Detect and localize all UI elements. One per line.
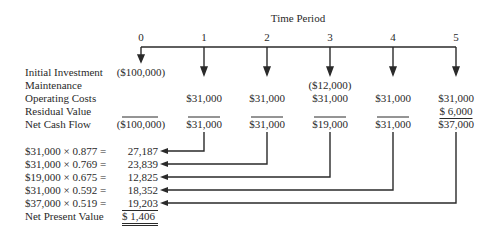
arrow-left-icon: [160, 174, 168, 180]
pv-value-4: 18,352: [118, 184, 158, 197]
arrow-left-icon: [160, 161, 168, 167]
value-operating-costs-4: $31,000: [375, 92, 411, 105]
pv-formula-4: $31,000 × 0.592 =: [25, 184, 106, 197]
arrow-left-icon: [160, 200, 168, 206]
arrow-left-icon: [160, 148, 168, 154]
pv-value-5: 19,203: [122, 197, 158, 211]
arrow-down-icon: [138, 55, 144, 62]
period-label-1: 1: [201, 31, 207, 44]
npv-label: Net Present Value: [25, 210, 104, 223]
left-arrowheads: [160, 148, 168, 206]
row-label-residual-value: Residual Value: [25, 105, 91, 118]
pv-value-1: 27,187: [118, 145, 158, 158]
value-operating-costs-3: $31,000: [312, 92, 348, 105]
arrow-down-icon: [327, 67, 333, 75]
arrow-down-icon: [390, 67, 396, 75]
value-net-cash-flow-0: ($100,000): [117, 118, 166, 131]
pv-value-3: 12,825: [118, 171, 158, 184]
period-arrows: [138, 47, 459, 75]
value-operating-costs-5: $31,000: [438, 92, 474, 105]
row-label-maintenance: Maintenance: [25, 79, 82, 92]
period-label-2: 2: [264, 31, 270, 44]
value-residual-5: $ 6,000: [440, 105, 473, 119]
period-label-0: 0: [138, 31, 144, 44]
discount-connectors: [168, 132, 456, 203]
arrow-down-icon: [264, 67, 270, 75]
value-net-cash-flow-4: $31,000: [375, 118, 411, 131]
diagram-title: Time Period: [271, 12, 325, 25]
period-label-5: 5: [453, 31, 459, 44]
value-maintenance-3: ($12,000): [308, 79, 351, 92]
row-label-operating-costs: Operating Costs: [25, 92, 96, 105]
pv-formula-5: $37,000 × 0.519 =: [25, 197, 106, 210]
value-operating-costs-1: $31,000: [186, 92, 222, 105]
npv-value: $ 1,406: [122, 210, 158, 226]
value-net-cash-flow-5: $37,000: [438, 118, 474, 131]
pv-formula-3: $19,000 × 0.675 =: [25, 171, 106, 184]
value-net-cash-flow-2: $31,000: [249, 118, 285, 131]
pv-formula-2: $31,000 × 0.769 =: [25, 158, 106, 171]
arrow-down-icon: [453, 67, 459, 75]
value-initial-investment-0: ($100,000): [117, 66, 166, 79]
value-operating-costs-2: $31,000: [249, 92, 285, 105]
row-label-net-cash-flow: Net Cash Flow: [25, 118, 91, 131]
period-label-4: 4: [390, 31, 396, 44]
arrow-left-icon: [160, 187, 168, 193]
pv-value-2: 23,839: [118, 158, 158, 171]
value-net-cash-flow-3: $19,000: [312, 118, 348, 131]
row-label-initial-investment: Initial Investment: [25, 66, 103, 79]
arrow-down-icon: [201, 67, 207, 75]
value-net-cash-flow-1: $31,000: [186, 118, 222, 131]
pv-formula-1: $31,000 × 0.877 =: [25, 145, 106, 158]
period-label-3: 3: [327, 31, 333, 44]
